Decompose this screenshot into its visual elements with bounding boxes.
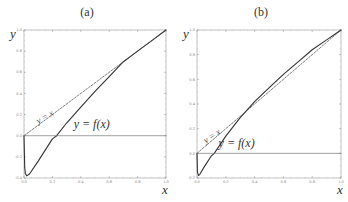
y-tick-label: 1.0 <box>16 28 22 32</box>
x-axis-label: x <box>161 182 168 197</box>
y-tick-label: -0.2 <box>188 176 195 180</box>
y-tick-label: 0.4 <box>16 92 22 96</box>
curve-f <box>24 30 166 176</box>
curve-f <box>197 30 341 176</box>
plot-frame <box>197 30 341 178</box>
y-tick-label: 0.8 <box>16 49 22 53</box>
y-axis-label: y <box>181 26 189 41</box>
x-tick-label: 0.0 <box>194 180 200 184</box>
panel-a: (a) 0.00.20.40.60.81.0-0.4-0.20.00.20.40… <box>0 0 174 202</box>
y-tick-label: -0.2 <box>15 155 22 159</box>
y-tick-label: 0.6 <box>16 70 22 74</box>
x-tick-label: 0.4 <box>78 180 84 184</box>
y-tick-label: 0.0 <box>16 134 22 138</box>
panel-b: (b) 0.00.20.40.60.81.0-0.20.00.20.40.60.… <box>174 0 348 202</box>
x-axis-label: x <box>336 182 343 197</box>
x-tick-label: 0.2 <box>223 180 229 184</box>
y-tick-label: 0.2 <box>16 113 22 117</box>
y-tick-label: 0.0 <box>189 152 195 156</box>
y-tick-label: 0.6 <box>189 78 195 82</box>
y-tick-label: 1.0 <box>189 28 195 32</box>
x-tick-label: 0.6 <box>281 180 287 184</box>
curve-label: y = f(x) <box>218 136 255 150</box>
y-tick-label: -0.4 <box>15 176 23 180</box>
y-axis-label: y <box>8 26 16 41</box>
x-tick-label: 0.2 <box>50 180 56 184</box>
plot-frame <box>24 30 166 178</box>
x-tick-label: 0.4 <box>252 180 258 184</box>
x-tick-label: 0.0 <box>21 180 27 184</box>
identity-label: y = x <box>33 108 55 126</box>
x-tick-label: 0.8 <box>309 180 315 184</box>
y-tick-label: 0.4 <box>189 102 195 106</box>
x-tick-label: 0.8 <box>135 180 141 184</box>
plot-b: 0.00.20.40.60.81.0-0.20.00.20.40.60.81.0… <box>174 0 348 202</box>
y-tick-label: 0.8 <box>189 53 195 57</box>
x-tick-label: 0.6 <box>106 180 112 184</box>
curve-label: y = f(x) <box>73 117 110 131</box>
y-tick-label: 0.2 <box>189 127 195 131</box>
plot-a: 0.00.20.40.60.81.0-0.4-0.20.00.20.40.60.… <box>0 0 174 202</box>
